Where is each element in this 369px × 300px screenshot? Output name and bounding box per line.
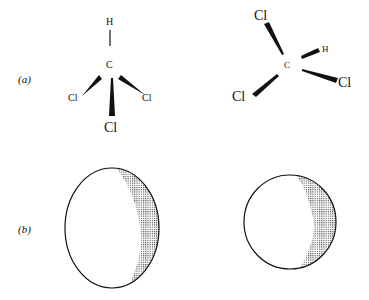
panel-a-label: (a) — [18, 73, 31, 86]
ellipse-left — [65, 160, 172, 295]
atom-c-center: C — [106, 59, 113, 70]
wedge-bond-h — [301, 48, 320, 59]
atom-cl-top: Cl — [254, 8, 267, 23]
figure: (a) H C Cl Cl Cl Cl C H Cl Cl (b) — [0, 0, 369, 300]
wedge-bond-bottom-left — [252, 74, 279, 97]
atom-cl-right: Cl — [142, 92, 152, 103]
atom-c-center: C — [284, 60, 290, 70]
molecule-right: Cl C H Cl Cl — [232, 8, 351, 104]
wedge-bond-top — [264, 22, 284, 55]
atom-h: H — [322, 44, 329, 54]
panel-b-label: (b) — [18, 223, 31, 236]
wedge-bond-right — [118, 75, 145, 95]
atom-cl-left: Cl — [68, 92, 78, 103]
wedge-bond-right — [302, 69, 338, 83]
atom-cl-bottom: Cl — [104, 120, 117, 135]
atom-cl-right: Cl — [338, 75, 351, 90]
molecule-left: H C Cl Cl Cl — [68, 16, 152, 135]
atom-h-top: H — [106, 16, 113, 27]
circle-right — [244, 170, 345, 275]
wedge-bond-left — [82, 75, 102, 96]
wedge-bond-bottom — [109, 78, 115, 116]
atom-cl-bottom-left: Cl — [232, 89, 245, 104]
